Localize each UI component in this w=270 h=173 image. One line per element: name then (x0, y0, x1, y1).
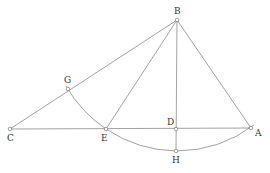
label-D: D (167, 117, 174, 127)
point-D (174, 127, 178, 131)
label-B: B (174, 6, 181, 16)
segment-CA (10, 128, 251, 129)
point-C (8, 127, 12, 131)
segment-BA (177, 20, 251, 128)
label-A: A (254, 128, 262, 138)
geometry-diagram: B C G E D A H (0, 0, 270, 173)
label-H: H (172, 155, 180, 165)
segment-BE (106, 20, 177, 129)
segment-CB (10, 20, 177, 129)
label-E: E (101, 133, 108, 143)
segment-BH (176, 20, 177, 151)
label-C: C (7, 133, 14, 143)
point-B (175, 18, 179, 22)
point-A (249, 126, 253, 130)
label-G: G (64, 75, 71, 85)
point-G (66, 87, 70, 91)
point-H (174, 149, 178, 153)
arc-GEHA (66, 86, 254, 151)
point-E (104, 127, 108, 131)
